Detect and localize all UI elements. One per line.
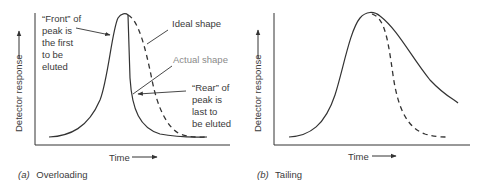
panel-a-actual-label: Actual shape (173, 54, 228, 65)
panel-a-rear-label: “Rear” of peak is last to be eluted (192, 82, 232, 129)
panel-a-ideal-label: Ideal shape (172, 18, 221, 29)
panel-b-ideal-curve (372, 14, 448, 137)
panel-b-xlabel: Time (348, 151, 369, 162)
panel-a-overloading: Detector response Time “Front” of peak i… (13, 13, 232, 180)
panel-b-caption: (b) Tailing (257, 169, 302, 180)
panel-a-ideal-pointer (147, 30, 168, 44)
panel-a-rear-pointer-arrow-icon (138, 91, 186, 94)
panel-b-tailing: Detector response Time (b) Tailing (252, 12, 470, 180)
panel-a-xlabel: Time (109, 152, 130, 163)
panel-a-front-pointer-arrow-icon (76, 28, 110, 35)
panel-b-ylabel: Detector response (252, 54, 263, 132)
panel-a-front-label: “Front” of peak is the first to be elute… (42, 13, 84, 72)
panel-a-caption: (a) Overloading (18, 169, 88, 180)
panel-a-ylabel: Detector response (13, 54, 24, 132)
panel-a-actual-pointer (133, 66, 172, 94)
panel-b-actual-curve (289, 12, 458, 137)
